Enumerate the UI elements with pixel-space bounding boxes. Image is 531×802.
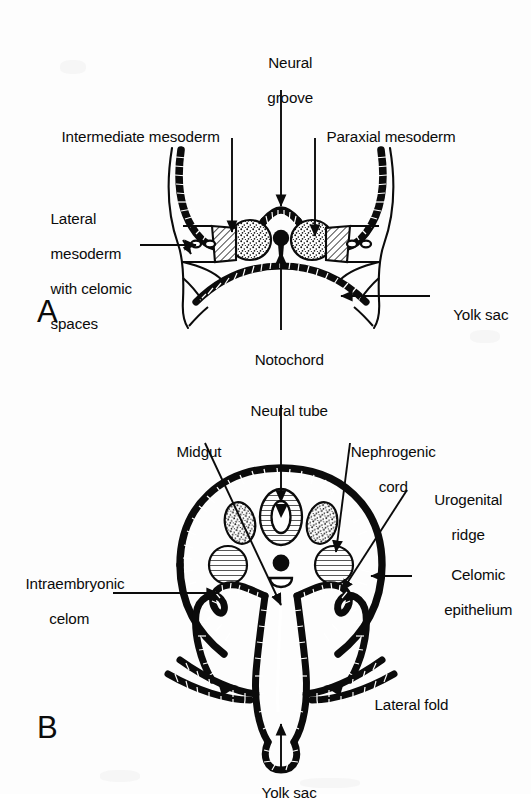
label-neural-groove-line2: groove bbox=[267, 89, 313, 106]
panel-letter-a-text: A bbox=[37, 294, 58, 329]
label-urogenital-ridge-line1: Urogenital bbox=[434, 491, 502, 508]
label-intermediate-mesoderm: Intermediate mesoderm bbox=[45, 110, 220, 163]
panel-b-dorsal-aorta bbox=[270, 578, 292, 587]
leader-lateral-mesoderm-barb bbox=[183, 240, 191, 254]
label-celomic-epithelium-line2: epithelium bbox=[444, 601, 512, 618]
panel-b-midgut bbox=[278, 604, 281, 712]
panel-a-neural-groove bbox=[264, 210, 298, 221]
label-lateral-mesoderm-line2: mesoderm bbox=[50, 245, 121, 262]
label-neural-tube-text: Neural tube bbox=[251, 402, 328, 419]
panel-letter-a: A bbox=[37, 296, 58, 327]
label-yolk-sac-b-text: Yolk sac bbox=[262, 784, 317, 801]
label-yolk-sac-a-text: Yolk sac bbox=[453, 306, 508, 323]
panel-letter-b: B bbox=[37, 712, 58, 743]
panel-b-notochord bbox=[273, 555, 290, 572]
label-notochord-text: Notochord bbox=[255, 351, 324, 368]
label-midgut: Midgut bbox=[160, 425, 221, 478]
label-paraxial-mesoderm-text: Paraxial mesoderm bbox=[326, 128, 455, 145]
label-intermediate-mesoderm-text: Intermediate mesoderm bbox=[61, 128, 219, 145]
label-yolk-sac-b: Yolk sac bbox=[237, 766, 325, 802]
label-lateral-fold: Lateral fold bbox=[358, 678, 448, 731]
label-lateral-fold-text: Lateral fold bbox=[374, 696, 448, 713]
label-neural-tube: Neural tube bbox=[231, 384, 331, 437]
label-lateral-mesoderm-line3: with celomic bbox=[50, 280, 132, 297]
label-neural-groove-line1: Neural bbox=[268, 54, 312, 71]
label-nephrogenic-cord-line2: cord bbox=[379, 478, 408, 495]
label-intraembryonic-celom: Intraembryonic celom bbox=[9, 557, 113, 645]
panel-letter-b-text: B bbox=[37, 710, 58, 745]
label-nephrogenic-cord-line1: Nephrogenic bbox=[351, 443, 436, 460]
label-celomic-epithelium-line1: Celomic bbox=[451, 566, 505, 583]
label-midgut-text: Midgut bbox=[176, 443, 221, 460]
label-lateral-mesoderm-line1: Lateral bbox=[50, 210, 96, 227]
label-paraxial-mesoderm: Paraxial mesoderm bbox=[310, 110, 456, 163]
label-urogenital-ridge-line2: ridge bbox=[452, 526, 485, 543]
label-intraembryonic-celom-line1: Intraembryonic bbox=[25, 575, 124, 592]
label-yolk-sac-a: Yolk sac bbox=[437, 288, 508, 341]
label-intraembryonic-celom-line2: celom bbox=[49, 610, 89, 627]
label-celomic-epithelium: Celomic epithelium bbox=[415, 548, 525, 636]
label-notochord: Notochord bbox=[231, 333, 331, 386]
